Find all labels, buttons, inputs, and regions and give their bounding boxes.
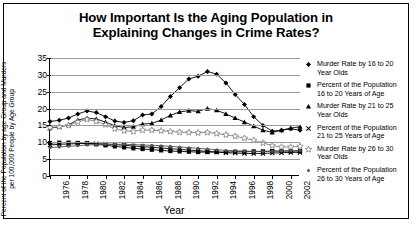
data-point-dot xyxy=(169,145,172,148)
data-point-dot xyxy=(197,147,200,150)
legend-label-line-1: Percent of the Population xyxy=(317,124,415,133)
data-point-star xyxy=(149,127,155,133)
x-axis-tick-mark xyxy=(161,175,162,179)
data-point-square xyxy=(306,84,310,88)
legend-label-line-1: Percent of the Population xyxy=(317,166,415,175)
legend-marker-dot-icon xyxy=(304,166,313,175)
chart-title: How Important Is the Aging Population in… xyxy=(4,10,408,40)
data-point-star xyxy=(195,130,201,136)
data-point-triangle xyxy=(306,104,311,109)
data-point-star xyxy=(232,133,238,139)
data-point-diamond xyxy=(94,110,99,115)
legend-label-line-2: 26 to 30 Years of Age xyxy=(317,175,415,184)
legend-label-line-2: 16 to 20 Years of Age xyxy=(317,90,415,99)
x-axis-label: Year xyxy=(49,205,299,216)
y-axis-tick-mark xyxy=(47,58,51,59)
gridline xyxy=(50,92,300,93)
x-axis-tick-label: 2000 xyxy=(285,181,294,199)
y-axis-tick-mark xyxy=(47,159,51,160)
x-axis-tick-label: 1982 xyxy=(118,181,127,199)
gridline xyxy=(50,58,300,59)
x-axis-tick-label: 1976 xyxy=(63,181,72,199)
data-point-diamond xyxy=(131,118,136,123)
legend-label-line-2: 21 to 25 Years of Age xyxy=(317,132,415,141)
legend-marker-square-icon xyxy=(304,81,313,90)
legend-item[interactable]: Percent of the Population16 to 20 Years … xyxy=(303,81,415,98)
y-axis-tick-mark xyxy=(47,142,51,143)
data-point-star xyxy=(214,130,220,136)
x-axis-tick-label: 1996 xyxy=(248,181,257,199)
legend-label-line-1: Murder Rate by 21 to 25 xyxy=(317,102,415,111)
data-point-dot xyxy=(150,144,153,147)
data-point-dot xyxy=(86,143,89,146)
x-axis-tick-mark xyxy=(143,175,144,179)
data-point-star xyxy=(176,129,182,135)
data-point-star xyxy=(139,127,145,133)
x-axis-tick-label: 1990 xyxy=(192,181,201,199)
data-point-dot xyxy=(49,146,52,149)
series-line xyxy=(48,69,303,134)
x-axis-tick-label: 1980 xyxy=(100,181,109,199)
data-point-triangle xyxy=(159,117,164,122)
data-point-diamond xyxy=(122,120,127,125)
legend-marker-diamond-icon xyxy=(304,60,313,69)
chart-title-line-1: How Important Is the Aging Population in xyxy=(4,10,408,25)
data-point-diamond xyxy=(306,62,311,67)
data-point-dot xyxy=(299,149,302,152)
legend-label-line-2: Year Olds xyxy=(317,69,415,78)
data-point-diamond xyxy=(66,116,71,121)
series-path xyxy=(50,71,300,131)
x-axis-tick-mark xyxy=(272,175,273,179)
plot-area: 0510152025303519761978198019821984198619… xyxy=(49,58,299,176)
data-point-dot xyxy=(76,144,79,147)
data-point-dot xyxy=(280,150,283,153)
x-axis-tick-mark xyxy=(50,175,51,179)
data-point-star xyxy=(288,144,294,150)
data-point-triangle xyxy=(242,119,247,124)
data-point-diamond xyxy=(205,69,210,74)
data-point-dot xyxy=(215,148,218,151)
data-point-dot xyxy=(224,149,227,152)
legend-marker-star-icon xyxy=(304,145,313,154)
data-point-star xyxy=(223,132,229,138)
x-axis-tick-label: 1998 xyxy=(266,181,275,199)
legend-marker-triangle-icon xyxy=(304,102,313,111)
gridline xyxy=(50,125,300,126)
data-point-dot xyxy=(132,143,135,146)
data-point-star xyxy=(204,129,210,135)
data-point-dot xyxy=(252,150,255,153)
legend-item[interactable]: Percent of the Population26 to 30 Years … xyxy=(303,166,415,183)
y-axis-tick-mark xyxy=(47,75,51,76)
chart-frame: How Important Is the Aging Population in… xyxy=(3,3,409,219)
data-point-star xyxy=(241,135,247,141)
y-axis-tick-mark xyxy=(47,92,51,93)
data-point-star xyxy=(167,128,173,134)
data-point-dot xyxy=(95,143,98,146)
y-axis-tick-mark xyxy=(47,109,51,110)
legend-label-line-1: Murder Rate by 26 to 30 xyxy=(317,145,415,154)
legend-item[interactable]: Percent of the Population21 to 25 Years … xyxy=(303,124,415,141)
x-axis-tick-label: 1992 xyxy=(211,181,220,199)
x-axis-tick-label: 1984 xyxy=(137,181,146,199)
data-point-star xyxy=(305,146,311,152)
gridline xyxy=(50,142,300,143)
chart-legend: Murder Rate by 16 to 20Year OldsPercent … xyxy=(303,60,415,187)
gridline xyxy=(50,159,300,160)
data-point-dot xyxy=(187,146,190,149)
data-point-dot xyxy=(289,149,292,152)
data-point-dot xyxy=(160,144,163,147)
y-axis-label: Percent of the Population by age Group a… xyxy=(0,54,16,224)
legend-item[interactable]: Murder Rate by 26 to 30Year Olds xyxy=(303,145,415,162)
gridline xyxy=(50,75,300,76)
legend-label-line-2: Year Olds xyxy=(317,111,415,120)
x-axis-tick-mark xyxy=(198,175,199,179)
x-axis-tick-label: 1994 xyxy=(229,181,238,199)
data-point-diamond xyxy=(103,114,108,119)
chart-title-line-2: Explaining Changes in Crime Rates? xyxy=(4,25,408,40)
legend-item[interactable]: Murder Rate by 16 to 20Year Olds xyxy=(303,60,415,77)
legend-item[interactable]: Murder Rate by 21 to 25Year Olds xyxy=(303,102,415,119)
data-point-dot xyxy=(261,150,264,153)
data-point-dot xyxy=(141,143,144,146)
gridline xyxy=(50,109,300,110)
y-axis-label-line-2: per 100,000 People by Age Group xyxy=(8,89,15,189)
